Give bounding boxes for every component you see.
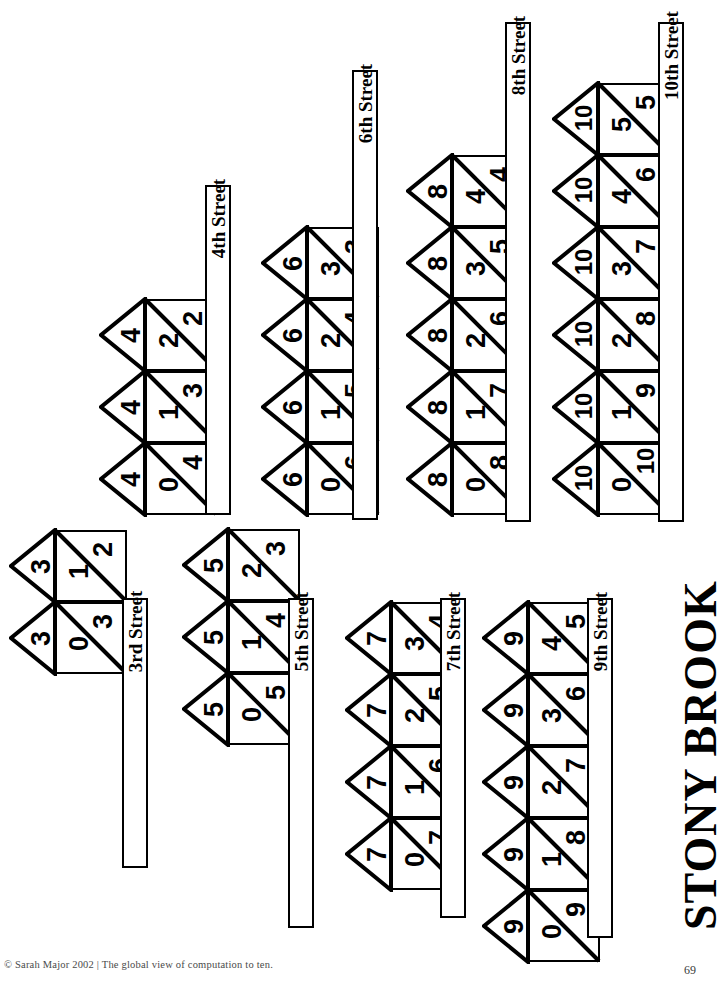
house-total: 9 [501,763,528,803]
house-addend-a: 0 [463,465,490,505]
street-label-bar: 9th Street [587,598,613,938]
street-label-text: 4th Street [209,159,228,279]
house-addend-a: 2 [402,696,429,736]
house-addend-a: 4 [609,177,636,217]
house-total: 6 [280,460,307,500]
number-bond-house: 523 [182,529,300,601]
street-label-text: 7th Street [444,572,463,692]
house-addend-a: 1 [239,623,266,663]
house-addend-a: 2 [539,768,566,808]
number-bond-house: 1037 [552,227,670,299]
house-addend-b: 5 [263,673,290,713]
house-addend-a: 3 [463,249,490,289]
house-addend-a: 1 [66,552,93,592]
number-bond-house: 1046 [552,155,670,227]
house-addend-b: 6 [633,155,660,195]
house-addend-a: 1 [463,393,490,433]
house-addend-a: 5 [609,105,636,145]
house-total: 5 [201,690,228,730]
number-bond-house: 945 [482,602,600,674]
house-total: 10 [572,98,596,138]
house-total: 9 [501,691,528,731]
house-addend-a: 3 [318,249,345,289]
house-total: 10 [572,314,596,354]
house-addend-a: 1 [539,840,566,880]
house-total: 8 [425,172,452,212]
number-bond-house: 918 [482,818,600,890]
house-addend-b: 9 [563,890,590,930]
house-total: 4 [118,460,145,500]
house-total: 9 [501,835,528,875]
street-label-bar: 10th Street [658,22,684,522]
street-label-text: 8th Street [509,0,528,116]
house-addend-a: 0 [239,695,266,735]
house-addend-b: 6 [563,674,590,714]
house-total: 8 [425,388,452,428]
house-addend-b: 2 [180,299,207,339]
number-bond-house: 505 [182,673,300,745]
house-addend-a: 4 [539,624,566,664]
house-addend-b: 3 [90,602,117,642]
number-bond-house: 312 [9,530,127,602]
house-addend-b: 3 [180,371,207,411]
street-label-bar: 5th Street [288,598,314,928]
house-addend-b: 4 [180,443,207,483]
house-total: 8 [425,460,452,500]
house-total: 9 [501,907,528,947]
house-addend-b: 5 [633,83,660,123]
house-total: 10 [572,242,596,282]
house-total: 7 [364,691,391,731]
number-bond-house: 1055 [552,83,670,155]
number-bond-house: 1019 [552,371,670,443]
house-addend-a: 1 [609,393,636,433]
house-addend-b: 8 [633,299,660,339]
house-addend-a: 1 [156,393,183,433]
house-addend-a: 3 [539,696,566,736]
house-total: 4 [118,388,145,428]
street-label-bar: 7th Street [440,598,466,918]
footer-credit: © Sarah Major 2002 | The global view of … [4,959,273,970]
house-addend-a: 4 [463,177,490,217]
number-bond-house: 10010 [552,443,670,515]
street-label-bar: 6th Street [352,70,378,520]
house-addend-a: 2 [156,321,183,361]
house-total: 9 [501,619,528,659]
house-total: 5 [201,618,228,658]
house-total: 8 [425,244,452,284]
number-bond-house: 404 [99,443,217,515]
house-addend-b: 7 [563,746,590,786]
house-addend-a: 0 [156,465,183,505]
house-addend-a: 0 [318,465,345,505]
house-addend-b: 5 [563,602,590,642]
house-total: 7 [364,763,391,803]
street-label-bar: 8th Street [505,22,531,522]
house-addend-a: 1 [402,768,429,808]
house-total: 6 [280,388,307,428]
house-addend-a: 2 [318,321,345,361]
house-total: 3 [28,619,55,659]
house-total: 10 [572,386,596,426]
house-addend-b: 3 [263,529,290,569]
house-addend-b: 4 [263,601,290,641]
number-bond-house: 927 [482,746,600,818]
house-total: 6 [280,244,307,284]
house-addend-a: 3 [609,249,636,289]
number-bond-house: 303 [9,602,127,674]
street-label-bar: 4th Street [205,185,231,515]
house-addend-a: 0 [539,912,566,952]
house-total: 6 [280,316,307,356]
number-bond-house: 514 [182,601,300,673]
house-addend-a: 2 [463,321,490,361]
house-total: 3 [28,547,55,587]
house-addend-a: 1 [318,393,345,433]
number-bond-house: 909 [482,890,600,962]
house-addend-a: 0 [66,624,93,664]
house-addend-b: 2 [90,530,117,570]
house-addend-b: 9 [633,371,660,411]
house-total: 10 [572,170,596,210]
street-label-text: 9th Street [591,572,610,692]
house-total: 4 [118,316,145,356]
house-addend-a: 2 [239,551,266,591]
house-addend-b: 8 [563,818,590,858]
